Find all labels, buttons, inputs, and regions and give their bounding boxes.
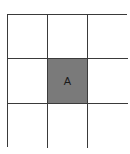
three-by-three-grid: A [7,14,127,147]
grid-cell-r1-c2 [48,15,88,59]
grid-cell-r3-c1 [8,104,48,148]
grid-cell-r1-c1 [8,15,48,59]
grid-cell-center-a: A [48,59,88,104]
grid-cell-r3-c3 [88,104,128,148]
cropped-caption-fragment [30,0,110,2]
grid-cell-r2-c1 [8,59,48,104]
grid-cell-r2-c3 [88,59,128,104]
grid-cell-r3-c2 [48,104,88,148]
grid-cell-r1-c3 [88,15,128,59]
